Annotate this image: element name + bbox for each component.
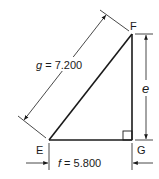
right-angle-marker xyxy=(123,131,132,140)
extension-line-e xyxy=(18,116,46,138)
triangle xyxy=(49,34,132,140)
side-g-hypotenuse xyxy=(49,34,132,140)
label-f: f = 5.800 xyxy=(58,157,101,169)
triangle-diagram: g = 7.200 e f = 5.800 E F G xyxy=(0,0,159,179)
label-e: e xyxy=(142,81,149,96)
vertex-label-f: F xyxy=(130,20,137,32)
vertex-label-e: E xyxy=(36,144,43,156)
extension-line-f xyxy=(100,10,129,31)
dimension-g xyxy=(18,10,129,138)
vertex-label-g: G xyxy=(137,144,146,156)
label-g: g = 7.200 xyxy=(36,59,82,71)
